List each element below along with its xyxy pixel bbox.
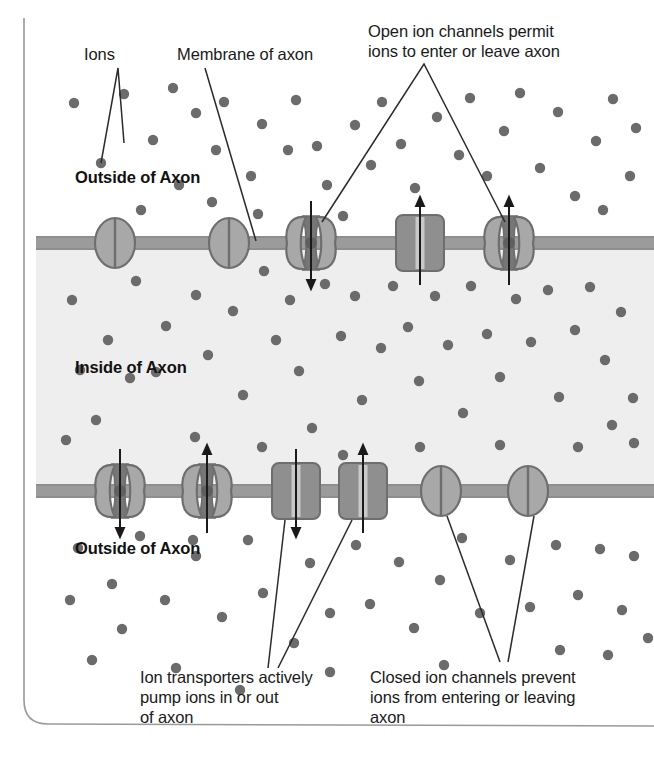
- ion-dot: [396, 139, 406, 149]
- ion-dot: [616, 307, 626, 317]
- ion-dot: [257, 442, 267, 452]
- ion-dot: [570, 191, 580, 201]
- ion-dot: [535, 163, 545, 173]
- ion-dot: [350, 291, 360, 301]
- ion-dot: [526, 337, 536, 347]
- ion-dot: [294, 366, 304, 376]
- ion-dot: [117, 624, 127, 634]
- ion-dot: [365, 599, 375, 609]
- ion-dot: [243, 535, 253, 545]
- ion-dot: [203, 350, 213, 360]
- ion-dot: [466, 281, 476, 291]
- region-label-outside-bottom: Outside of Axon: [75, 539, 200, 558]
- label-open-ion-channels: Open ion channels permit ions to enter o…: [368, 21, 560, 61]
- ion-dot: [454, 150, 464, 160]
- ion-dot: [312, 141, 322, 151]
- ion-dot: [219, 97, 229, 107]
- ion-dot: [253, 209, 263, 219]
- closed-ion-channel: [508, 466, 548, 516]
- ion-dot: [350, 120, 360, 130]
- ion-dot: [414, 376, 424, 386]
- ion-dot: [553, 107, 563, 117]
- ion-dot: [61, 435, 71, 445]
- ion-dot: [443, 340, 453, 350]
- ion-dot: [617, 605, 627, 615]
- ion-dot: [136, 205, 146, 215]
- ion-dot: [505, 555, 515, 565]
- ion-dot: [465, 93, 475, 103]
- ion-dot: [603, 650, 613, 660]
- region-label-inside: Inside of Axon: [75, 358, 187, 377]
- ion-dot: [482, 329, 492, 339]
- ion-dot: [190, 432, 200, 442]
- ion-dot: [458, 408, 468, 418]
- ion-dot: [322, 180, 332, 190]
- ion-dot: [573, 590, 583, 600]
- ion-dot: [291, 95, 301, 105]
- ion-dot: [283, 145, 293, 155]
- closed-ion-channel: [95, 218, 135, 268]
- ion-dot: [305, 558, 315, 568]
- ion-dot: [403, 322, 413, 332]
- ion-dot: [351, 540, 361, 550]
- ion-dot: [432, 112, 442, 122]
- ion-dot: [238, 390, 248, 400]
- ion-dot: [511, 294, 521, 304]
- ion-dot: [246, 171, 256, 181]
- ion-dot: [217, 612, 227, 622]
- ion-dot: [555, 645, 565, 655]
- ion-dot: [515, 88, 525, 98]
- ion-dot: [625, 171, 635, 181]
- ion-dot: [366, 160, 376, 170]
- ion-dot: [525, 602, 535, 612]
- ion-dot: [338, 211, 348, 221]
- ion-dot: [409, 623, 419, 633]
- ion-dot: [91, 415, 101, 425]
- ion-dot: [573, 442, 583, 452]
- ion-dot: [69, 98, 79, 108]
- ion-dot: [543, 285, 553, 295]
- ion-dot: [161, 321, 171, 331]
- ion-dot: [643, 633, 653, 643]
- ion-dot: [495, 440, 505, 450]
- ion-dot: [600, 355, 610, 365]
- ion-dot: [377, 97, 387, 107]
- ion-dot: [376, 343, 386, 353]
- diagram-canvas: [0, 0, 654, 762]
- label-closed-ion-channels: Closed ion channels prevent ions from en…: [370, 667, 576, 727]
- ion-dot: [271, 335, 281, 345]
- ion-dot: [629, 438, 639, 448]
- ion-dot: [410, 183, 420, 193]
- ion-dot: [87, 655, 97, 665]
- closed-ion-channel: [421, 466, 461, 516]
- ion-dot: [160, 595, 170, 605]
- ion-dot: [338, 450, 348, 460]
- ion-dot: [207, 197, 217, 207]
- ion-dot: [598, 205, 608, 215]
- ion-dot: [211, 145, 221, 155]
- ion-dot: [168, 83, 178, 93]
- label-ion-transporters: Ion transporters actively pump ions in o…: [140, 667, 313, 727]
- ion-dot: [591, 136, 601, 146]
- label-ions: Ions: [84, 44, 115, 64]
- ion-dot: [457, 533, 467, 543]
- ion-dot: [595, 544, 605, 554]
- ion-dot: [554, 392, 564, 402]
- ion-dot: [629, 551, 639, 561]
- ion-dot: [191, 108, 201, 118]
- ion-dot: [107, 579, 117, 589]
- axon-membrane-diagram: Ions Membrane of axon Open ion channels …: [0, 0, 654, 762]
- ion-dot: [285, 295, 295, 305]
- ion-dot: [570, 325, 580, 335]
- ion-dot: [628, 393, 638, 403]
- ion-dot: [608, 94, 618, 104]
- ion-dot: [394, 557, 404, 567]
- label-membrane-of-axon: Membrane of axon: [177, 44, 313, 64]
- ion-dot: [357, 395, 367, 405]
- closed-ion-channel: [209, 218, 249, 268]
- ion-dot: [257, 119, 267, 129]
- ion-dot: [148, 135, 158, 145]
- ion-dot: [585, 282, 595, 292]
- ion-dot: [435, 575, 445, 585]
- ion-dot: [495, 372, 505, 382]
